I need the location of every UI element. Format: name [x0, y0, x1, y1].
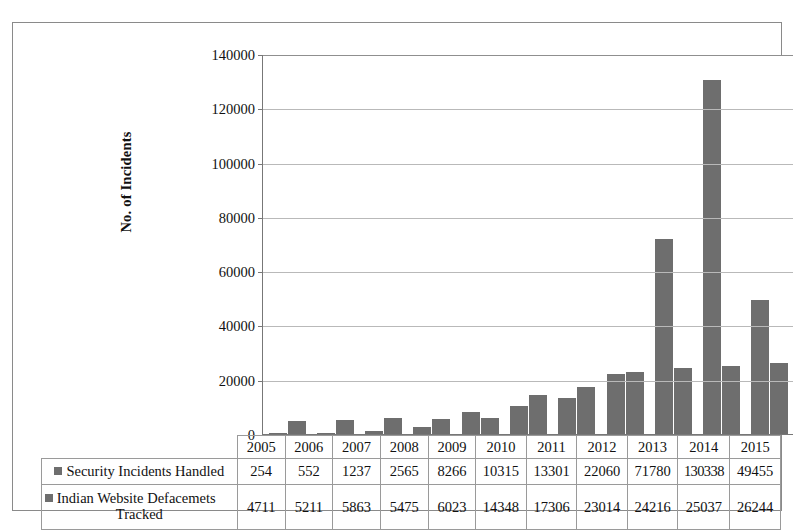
y-axis-tick-label: 80000	[219, 209, 255, 226]
y-axis-title: No. of Incidents	[118, 92, 136, 272]
y-axis-tick	[258, 381, 263, 382]
table-cell-value: 254	[237, 459, 285, 485]
table-cell-value: 13301	[526, 459, 577, 485]
legend-swatch-icon	[54, 467, 62, 475]
bar	[317, 433, 335, 434]
y-axis-tick-label: 40000	[219, 318, 255, 335]
table-cell-value: 5475	[380, 485, 428, 530]
data-table: 2005200620072008200920102011201220132014…	[13, 435, 781, 530]
bar	[432, 419, 450, 434]
table-cell-value: 10315	[476, 459, 527, 485]
y-axis-tick	[258, 55, 263, 56]
table-cell-value: 5863	[333, 485, 381, 530]
table-cell-value: 25037	[678, 485, 730, 530]
table-header-row: 2005200620072008200920102011201220132014…	[13, 436, 781, 459]
bar	[481, 418, 499, 434]
gridline	[263, 109, 793, 110]
bars-layer	[263, 55, 793, 434]
table-cell-value: 2565	[380, 459, 428, 485]
legend-swatch-icon	[45, 494, 53, 502]
plot-area: 020000400006000080000100000120000140000	[262, 55, 793, 435]
y-axis-tick-label: 120000	[212, 101, 256, 118]
y-axis-tick	[258, 218, 263, 219]
y-axis-tick-label: 20000	[219, 372, 255, 389]
bar	[770, 363, 788, 434]
x-axis-year-label: 2012	[577, 436, 628, 459]
table-corner-blank	[41, 436, 237, 459]
table-row-spacer	[13, 459, 41, 485]
bar	[751, 300, 769, 434]
bar	[288, 421, 306, 434]
bar	[336, 420, 354, 434]
legend-series-label: Security Incidents Handled	[41, 459, 237, 485]
bar	[269, 433, 287, 434]
table-cell-value: 22060	[577, 459, 628, 485]
bar	[365, 431, 383, 434]
bar	[607, 374, 625, 434]
x-axis-year-label: 2013	[627, 436, 678, 459]
y-axis-tick-label: 60000	[219, 264, 255, 281]
bar	[510, 406, 528, 434]
bar	[674, 368, 692, 434]
legend-series-label: Indian Website DefacemetsTracked	[41, 485, 237, 530]
bar	[384, 418, 402, 434]
legend-label-text: Security Incidents Handled	[66, 463, 224, 479]
bar	[558, 398, 576, 434]
table-cell-value: 14348	[476, 485, 527, 530]
y-axis-tick	[258, 109, 263, 110]
table-cell-value: 71780	[627, 459, 678, 485]
table-cell-value: 8266	[428, 459, 476, 485]
table-cell-value: 5211	[285, 485, 333, 530]
table-row-spacer	[13, 485, 41, 530]
y-axis-tick-label: 140000	[212, 47, 256, 64]
gridline	[263, 326, 793, 327]
legend-label-line2: Tracked	[45, 507, 234, 523]
x-axis-year-label: 2007	[333, 436, 381, 459]
table-cell-value: 17306	[526, 485, 577, 530]
bar	[529, 395, 547, 434]
x-axis-year-label: 2006	[285, 436, 333, 459]
y-axis-tick	[258, 164, 263, 165]
table-corner-spacer	[13, 436, 41, 459]
bar	[722, 366, 740, 434]
chart-frame: No. of Incidents 02000040000600008000010…	[12, 22, 782, 511]
x-axis-year-label: 2011	[526, 436, 577, 459]
table-cell-value: 49455	[730, 459, 781, 485]
table-cell-value: 1237	[333, 459, 381, 485]
x-axis-year-label: 2014	[678, 436, 730, 459]
bar	[413, 427, 431, 434]
table-cell-value: 552	[285, 459, 333, 485]
table-cell-value: 4711	[237, 485, 285, 530]
gridline	[263, 272, 793, 273]
x-axis-year-label: 2010	[476, 436, 527, 459]
table-row: Indian Website DefacemetsTracked47115211…	[13, 485, 781, 530]
cut-off-caption	[14, 0, 780, 10]
x-axis-year-label: 2005	[237, 436, 285, 459]
legend-label-text: Indian Website Defacemets	[57, 490, 216, 506]
y-axis-tick	[258, 326, 263, 327]
x-axis-year-label: 2015	[730, 436, 781, 459]
gridline	[263, 218, 793, 219]
table-row: Security Incidents Handled25455212372565…	[13, 459, 781, 485]
bar	[655, 239, 673, 434]
table-cell-value: 26244	[730, 485, 781, 530]
gridline	[263, 164, 793, 165]
bar	[577, 387, 595, 434]
table-cell-value: 6023	[428, 485, 476, 530]
y-axis-tick	[258, 272, 263, 273]
gridline	[263, 381, 793, 382]
bar	[462, 412, 480, 434]
table-cell-value: 24216	[627, 485, 678, 530]
table-cell-value: 130338	[678, 459, 730, 485]
x-axis-year-label: 2009	[428, 436, 476, 459]
y-axis-tick-label: 100000	[212, 155, 256, 172]
gridline	[263, 55, 793, 56]
legend-label-line1: Indian Website Defacemets	[45, 491, 234, 507]
table-cell-value: 23014	[577, 485, 628, 530]
x-axis-year-label: 2008	[380, 436, 428, 459]
